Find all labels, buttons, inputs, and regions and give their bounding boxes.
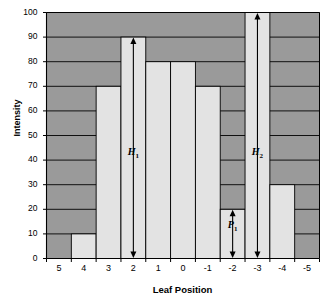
y-tick-label: 40 xyxy=(12,155,38,164)
x-tick-label: 4 xyxy=(71,263,96,273)
y-tick-label: 50 xyxy=(12,131,38,140)
x-tick-label: -4 xyxy=(270,263,295,273)
annotation-label-text: H xyxy=(252,146,260,157)
x-tick-label: -3 xyxy=(245,263,270,273)
bar xyxy=(96,86,121,258)
y-tick-label: 90 xyxy=(12,32,38,41)
y-tick-label: 80 xyxy=(12,57,38,66)
x-tick-label: -5 xyxy=(295,263,320,273)
x-tick-label: -2 xyxy=(220,263,245,273)
x-tick-label: 5 xyxy=(47,263,72,273)
x-tick-label: 1 xyxy=(146,263,171,273)
annotation-label-text: H xyxy=(128,146,136,157)
annotation-label-p1: P1 xyxy=(213,219,253,233)
y-tick-label: 70 xyxy=(12,81,38,90)
bar xyxy=(146,62,171,259)
bar xyxy=(71,234,96,259)
y-tick-label: 20 xyxy=(12,204,38,213)
x-tick-label: 0 xyxy=(171,263,196,273)
y-tick-label: 0 xyxy=(12,254,38,263)
x-tick-label: 3 xyxy=(96,263,121,273)
annotation-label-subscript: 2 xyxy=(260,152,264,160)
bar xyxy=(270,185,295,259)
y-tick-label: 60 xyxy=(12,106,38,115)
plot-area xyxy=(0,0,332,302)
y-tick-label: 30 xyxy=(12,180,38,189)
annotation-label-subscript: 1 xyxy=(136,152,140,160)
y-tick-label: 100 xyxy=(12,8,38,17)
bar-chart: Intensity Leaf Position 0102030405060708… xyxy=(0,0,332,302)
x-tick-label: 2 xyxy=(121,263,146,273)
x-tick-label: -1 xyxy=(195,263,220,273)
x-axis-title: Leaf Position xyxy=(46,284,319,295)
annotation-label-h1: H1 xyxy=(113,146,153,160)
bar xyxy=(171,62,196,259)
y-tick-label: 10 xyxy=(12,229,38,238)
annotation-label-h2: H2 xyxy=(237,146,277,160)
annotation-label-subscript: 1 xyxy=(234,225,238,233)
